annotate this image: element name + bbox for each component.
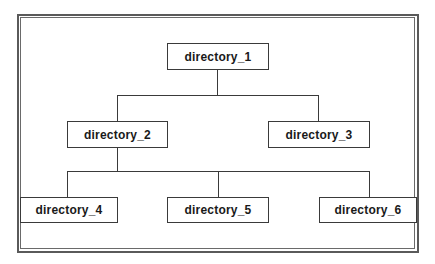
node-directory-1: directory_1 <box>167 43 269 70</box>
connector-to-dir3 <box>318 95 319 121</box>
connector-to-dir4 <box>67 171 68 197</box>
node-directory-3: directory_3 <box>268 121 370 148</box>
node-directory-6: directory_6 <box>319 197 417 223</box>
connector-to-dir6 <box>369 171 370 197</box>
node-directory-4: directory_4 <box>20 197 118 223</box>
connector-level1-horizontal <box>117 95 319 96</box>
connector-dir1-down <box>217 69 218 95</box>
node-directory-5: directory_5 <box>167 197 269 223</box>
connector-dir2-down <box>117 147 118 171</box>
node-directory-2: directory_2 <box>67 121 168 148</box>
connector-to-dir5 <box>218 171 219 197</box>
connector-to-dir2 <box>117 95 118 121</box>
